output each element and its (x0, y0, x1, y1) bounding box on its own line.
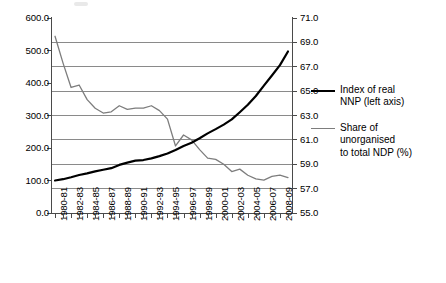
legend-label-line-3: to total NDP (%) (340, 147, 444, 159)
legend-item-index-real-nnp: Index of real NNP (left axis) (340, 84, 444, 109)
chart-figure: 0.0100.0200.0300.0400.0500.0600.0 55.057… (0, 0, 446, 283)
legend-label-index-real-nnp: Index of real NNP (left axis) (340, 84, 444, 109)
legend-label-share-unorganised: Share of unorganised to total NDP (%) (340, 122, 444, 159)
legend-label-line-2: unorganised (340, 134, 444, 146)
legend-item-share-unorganised: Share of unorganised to total NDP (%) (340, 122, 444, 159)
legend-line-icon-gray (311, 128, 335, 129)
legend-label-line-2: NNP (left axis) (340, 96, 444, 108)
legend-label-line-1: Index of real (340, 84, 444, 96)
legend-label-line-1: Share of (340, 122, 444, 134)
legend: Index of real NNP (left axis) Share of u… (340, 84, 444, 172)
series-share-unorganised (55, 36, 288, 180)
legend-line-icon-dark (311, 90, 335, 92)
series-index-real-nnp (55, 51, 288, 180)
